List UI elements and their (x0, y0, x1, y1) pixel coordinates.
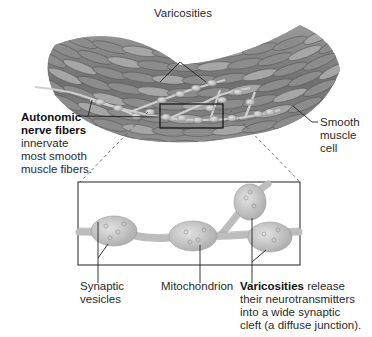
varicosity-bead (114, 105, 123, 111)
muscle-fiber (287, 120, 324, 142)
varicosity-bead (146, 109, 155, 115)
label-varic-desc-2: their neurotransmitters (240, 293, 355, 305)
label-varicosities-top: Varicosities (154, 7, 212, 20)
inset-magnified-view (78, 182, 300, 265)
label-autonomic-desc-3: muscle fibers. (21, 163, 92, 175)
varicosity-bead (206, 105, 215, 111)
label-autonomic-desc-1: innervate (21, 137, 68, 149)
muscle-fiber (182, 49, 218, 59)
label-autonomic-bold-1: Autonomic (21, 111, 81, 123)
muscle-fiber (241, 144, 278, 161)
label-synaptic-1: Synaptic (80, 280, 124, 292)
varicosity-bead (246, 99, 255, 105)
varicosity-4 (248, 222, 292, 252)
label-autonomic-nerve-fibers: Autonomic nerve fibers innervate most sm… (21, 111, 92, 176)
label-varic-desc-3: into a wide synaptic (240, 306, 340, 318)
varicosity-bead (176, 91, 185, 97)
varicosity-bead (254, 111, 263, 117)
muscle-fiber (152, 152, 189, 163)
label-smooth-1: Smooth (320, 116, 360, 128)
muscle-fiber (182, 153, 218, 163)
varicosity-2 (169, 221, 217, 251)
label-varic-desc-4: cleft (a diffuse junction). (240, 319, 361, 331)
varicosity-bead (192, 85, 201, 91)
varicosity-bead (218, 97, 227, 103)
varicosity-bead (266, 109, 275, 115)
varicosity-3 (234, 184, 266, 220)
varicosity-bead (228, 115, 237, 121)
label-synaptic-2: vesicles (80, 293, 121, 305)
label-synaptic-vesicles: Synaptic vesicles (80, 280, 124, 306)
label-varicosities-release: Varicosities release their neurotransmit… (240, 280, 361, 332)
varicosity-bead (162, 114, 171, 120)
label-smooth-muscle-cell: Smooth muscle cell (320, 116, 360, 155)
varicosity-bead (178, 115, 187, 121)
muscle-fiber (212, 149, 249, 163)
varicosity-bead (96, 99, 105, 105)
label-smooth-2: muscle (320, 129, 356, 141)
muscle-fiber (272, 137, 309, 157)
label-autonomic-desc-2: most smooth (21, 150, 87, 162)
label-autonomic-bold-2: nerve fibers (21, 124, 86, 136)
muscle-fiber (122, 148, 159, 163)
varicosity-bead (208, 80, 217, 86)
label-mitochondrion: Mitochondrion (161, 280, 233, 293)
label-varic-bold: Varicosities (240, 280, 304, 292)
varicosity-bead (234, 89, 243, 95)
label-varic-desc-1: release (304, 280, 345, 292)
varicosity-bead (158, 97, 167, 103)
varicosity-bead (210, 116, 219, 122)
label-smooth-3: cell (320, 142, 337, 154)
varicosity-bead (194, 117, 203, 123)
muscle-fiber (32, 21, 68, 45)
varicosity-bead (132, 113, 141, 119)
